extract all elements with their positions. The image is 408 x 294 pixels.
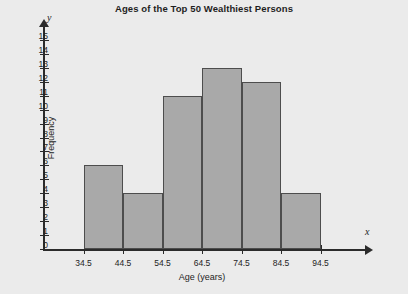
x-axis-tick-label: 34.5 xyxy=(64,258,104,268)
y-axis-tick-label: 1 xyxy=(22,231,48,232)
histogram-figure: Ages of the Top 50 Wealthiest Persons y … xyxy=(0,0,408,294)
y-axis-tick-label: 5 xyxy=(22,175,48,176)
y-axis-tick-label: 7 xyxy=(22,147,48,148)
y-axis-variable-symbol: y xyxy=(47,12,51,23)
y-axis-tick-label: 0 xyxy=(22,245,48,246)
x-axis-variable-symbol: x xyxy=(365,226,369,237)
histogram-bar xyxy=(202,68,242,249)
x-axis-tick-label: 84.5 xyxy=(261,258,301,268)
x-axis-tick-label: 44.5 xyxy=(103,258,143,268)
x-axis-tick-label: 74.5 xyxy=(222,258,262,268)
x-axis-tick-label: 94.5 xyxy=(301,258,341,268)
plot-area: y x 0123456789101112131415 34.544.554.56… xyxy=(44,36,360,250)
histogram-bar xyxy=(163,96,203,249)
y-axis-tick-label: 6 xyxy=(22,161,48,162)
y-axis-tick-label: 2 xyxy=(22,217,48,218)
y-axis-tick-label: 11 xyxy=(22,92,48,93)
y-axis-title: Frequency xyxy=(46,88,56,188)
x-axis-line xyxy=(43,249,366,251)
histogram-bar xyxy=(242,82,282,249)
y-axis-tick-label: 13 xyxy=(22,64,48,65)
x-axis-tick xyxy=(321,245,322,254)
histogram-bar xyxy=(123,193,163,249)
chart-title: Ages of the Top 50 Wealthiest Persons xyxy=(0,3,408,14)
y-axis-tick-label: 10 xyxy=(22,106,48,107)
y-axis-tick-label: 14 xyxy=(22,50,48,51)
y-axis-tick-label: 12 xyxy=(22,78,48,79)
x-axis-arrow-icon xyxy=(365,245,373,255)
y-axis-tick-label: 3 xyxy=(22,203,48,204)
y-axis-tick-label: 9 xyxy=(22,120,48,121)
y-axis-tick-label: 8 xyxy=(22,134,48,135)
y-axis-tick-label: 4 xyxy=(22,189,48,190)
y-axis-tick-label: 15 xyxy=(22,36,48,37)
histogram-bar xyxy=(281,193,321,249)
x-axis-tick-label: 64.5 xyxy=(182,258,222,268)
x-axis-tick-label: 54.5 xyxy=(143,258,183,268)
x-axis-title: Age (years) xyxy=(44,272,360,282)
histogram-bar xyxy=(84,165,124,249)
